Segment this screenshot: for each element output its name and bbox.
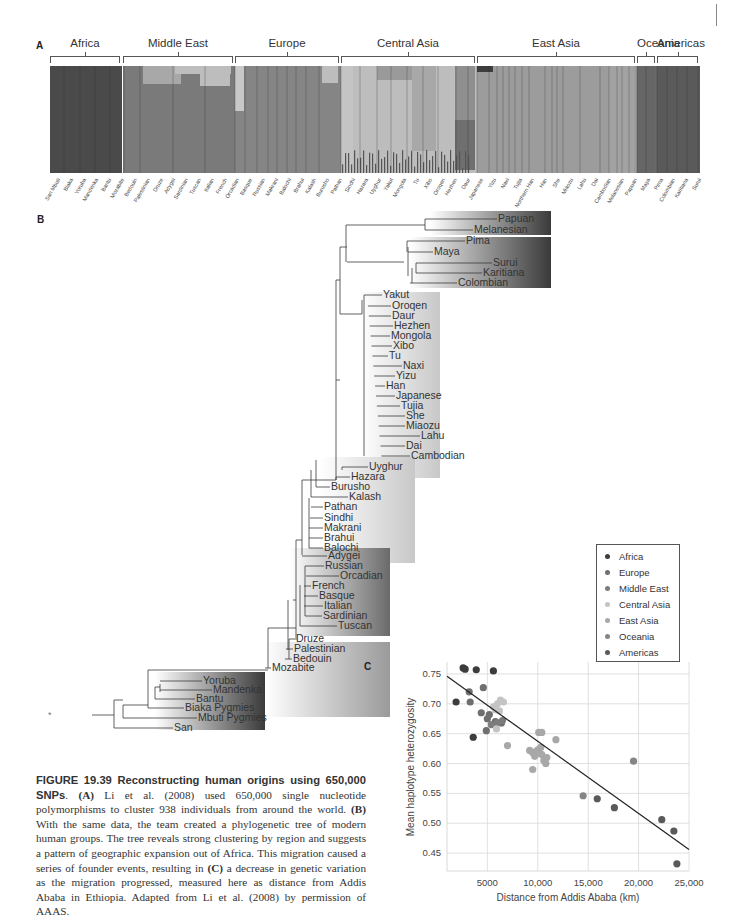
tree-taxon-label: Yizu [396, 370, 416, 381]
legend-item: Europe [597, 564, 679, 580]
x-tick-label: 25,000 [667, 877, 711, 888]
tree-taxon-label: Tu [389, 350, 401, 361]
caption-label-a: (A) [78, 789, 94, 801]
tree-taxon-label: Pima [466, 235, 490, 246]
tree-taxon-label: San [174, 722, 193, 733]
legend-marker-icon [605, 634, 610, 639]
legend-marker-icon [605, 554, 610, 559]
tree-taxon-label: Tujia [401, 400, 423, 411]
legend-item: Oceania [597, 628, 679, 644]
tree-taxon-label: Pathan [324, 501, 357, 512]
tree-taxon-label: Makrani [324, 522, 361, 533]
tree-taxon-label: Maya [434, 246, 460, 257]
caption-heading-period: . [65, 789, 68, 801]
legend-label: Oceania [619, 631, 654, 642]
tree-taxon-label: Colombian [458, 277, 508, 288]
tree-taxon-label: Mbuti Pygmies [198, 712, 267, 723]
y-tick-label: 0.75 [413, 668, 441, 679]
legend-marker-icon [605, 650, 610, 655]
legend-item: Middle East [597, 580, 679, 596]
legend-marker-icon [605, 586, 610, 591]
tree-taxon-label: She [406, 410, 425, 421]
y-axis-title: Mean haplotype heterozygosity [405, 667, 416, 867]
tree-taxon-label: Bantu [196, 693, 223, 704]
y-tick-label: 0.70 [413, 698, 441, 709]
legend-label: Americas [619, 647, 659, 658]
panel-b-letter: B [37, 214, 44, 225]
y-tick-label: 0.55 [413, 787, 441, 798]
legend-marker-icon [605, 618, 610, 623]
legend-item: Americas [597, 644, 679, 660]
legend-item: Central Asia [597, 596, 679, 612]
tree-taxon-label: Palestinian [294, 643, 345, 654]
tree-taxon-label: Lahu [421, 430, 444, 441]
chart-legend: AfricaEuropeMiddle EastCentral AsiaEast … [596, 544, 680, 662]
legend-marker-icon [605, 570, 610, 575]
tree-taxon-label: Tuscan [338, 620, 372, 631]
tree-taxon-label: Uyghur [369, 461, 403, 472]
tree-taxon-label: Mozabite [272, 662, 315, 673]
structure-plot-panel: AfricaMiddle EastEuropeCentral AsiaEast … [0, 0, 736, 210]
tree-taxon-label: Balochi [324, 542, 358, 553]
legend-label: Middle East [619, 583, 669, 594]
tree-taxon-label: Hezhen [394, 320, 430, 331]
tree-taxon-label: Mongola [391, 330, 431, 341]
tree-taxon-label: Kalash [349, 491, 381, 502]
tree-taxon-label: Brahui [324, 532, 354, 543]
tree-root-marker: * [48, 710, 52, 720]
x-axis-title: Distance from Addis Ababa (km) [447, 892, 689, 903]
tree-taxon-label: Yoruba [203, 675, 236, 686]
legend-label: Europe [619, 567, 650, 578]
tree-taxon-label: Adygei [328, 550, 360, 561]
x-tick-label: 20,000 [617, 877, 661, 888]
legend-label: East Asia [619, 615, 659, 626]
tree-taxon-label: Daur [392, 310, 415, 321]
tree-taxon-label: Japanese [396, 390, 442, 401]
legend-item: Africa [597, 548, 679, 564]
tree-taxon-label: Orcadian [340, 570, 383, 581]
figure-caption: FIGURE 19.39 Reconstructing human origin… [36, 773, 366, 919]
tree-taxon-label: Burusho [331, 481, 370, 492]
tree-taxon-label: Surui [493, 257, 518, 268]
legend-marker-icon [605, 602, 610, 607]
legend-label: Central Asia [619, 599, 670, 610]
tree-taxon-label: French [312, 580, 345, 591]
tree-taxon-label: Dai [406, 440, 422, 451]
y-tick-label: 0.65 [413, 728, 441, 739]
tree-taxon-label: Italian [324, 600, 352, 611]
tree-taxon-label: Hazara [351, 471, 385, 482]
x-tick-label: 5000 [465, 877, 509, 888]
caption-label-b: (B) [351, 803, 366, 815]
legend-item: East Asia [597, 612, 679, 628]
tree-taxon-label: Basque [319, 590, 355, 601]
legend-label: Africa [619, 551, 643, 562]
x-tick-label: 10,000 [516, 877, 560, 888]
tree-taxon-label: Yakut [383, 289, 409, 300]
caption-label-c: (C) [207, 862, 223, 874]
tree-taxon-label: Naxi [403, 360, 424, 371]
tree-taxon-label: Russian [325, 560, 363, 571]
tree-taxon-label: Biaka Pygmies [185, 702, 254, 713]
tree-taxon-label: Sardinian [323, 610, 367, 621]
x-tick-label: 15,000 [566, 877, 610, 888]
tree-taxon-label: Han [386, 380, 405, 391]
tree-taxon-label: Bedouin [293, 653, 332, 664]
tree-taxon-label: Karitiana [483, 267, 524, 278]
tree-taxon-label: Xibo [393, 340, 414, 351]
tree-taxon-label: Cambodian [411, 450, 465, 461]
tree-taxon-label: Oroqen [392, 300, 427, 311]
y-tick-label: 0.60 [413, 758, 441, 769]
tree-taxon-label: Mandenka [213, 684, 262, 695]
y-tick-label: 0.50 [413, 817, 441, 828]
y-tick-label: 0.45 [413, 847, 441, 858]
tree-taxon-label: Sindhi [324, 512, 353, 523]
panel-c-letter: C [364, 661, 371, 672]
tree-taxon-label: Miaozu [406, 420, 440, 431]
tree-taxon-label: Druze [296, 633, 324, 644]
